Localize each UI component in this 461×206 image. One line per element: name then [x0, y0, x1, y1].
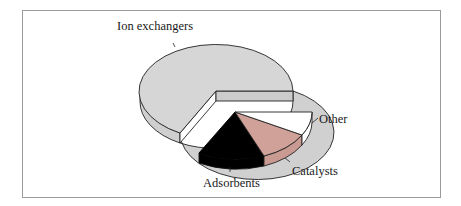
label-adsorbents: Adsorbents	[203, 176, 260, 190]
label-ion-exchangers: Ion exchangers	[117, 19, 193, 33]
label-catalysts: Catalysts	[292, 164, 338, 178]
pie-chart: Ion exchangers Other Catalysts Adsorbent…	[0, 0, 461, 206]
label-other: Other	[319, 112, 348, 126]
